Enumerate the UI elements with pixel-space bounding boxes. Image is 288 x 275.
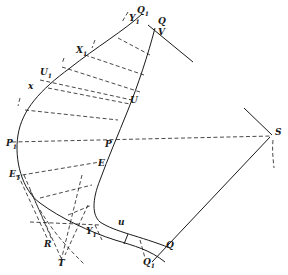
dashed-P1-S — [12, 136, 272, 142]
label-Y1-top: Y1 — [129, 14, 140, 25]
label-U1: U1 — [40, 68, 52, 79]
line-near-S — [244, 108, 272, 135]
label-T: T — [58, 259, 65, 268]
dashed-arc-S — [273, 140, 274, 168]
label-R: R — [44, 240, 51, 249]
label-S: S — [275, 128, 282, 137]
label-E: E — [98, 159, 105, 168]
label-V: V — [158, 28, 165, 37]
tangent-top — [148, 25, 193, 62]
label-E1: E1 — [9, 170, 20, 181]
label-Q1-bottom: Q1 — [143, 258, 155, 269]
label-u: u — [118, 218, 125, 227]
diagram-canvas — [0, 0, 288, 275]
inner-curve — [94, 28, 170, 248]
label-x: x — [28, 82, 33, 91]
label-Q-bottom: Q — [166, 241, 174, 250]
label-X1: X1 — [76, 46, 87, 57]
label-Y1-bottom: Y1 — [86, 227, 97, 238]
label-P: P — [105, 140, 112, 149]
label-Q-top: Q — [158, 17, 166, 26]
label-U: U — [130, 96, 138, 105]
label-P1: P1 — [6, 139, 17, 150]
